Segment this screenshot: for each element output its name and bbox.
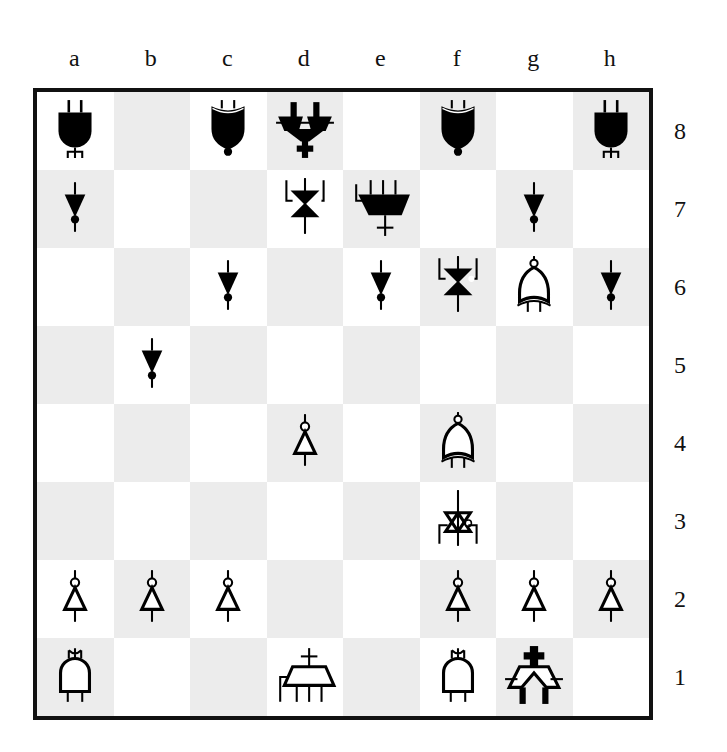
black-pawn-buffer-gate-icon[interactable] — [197, 254, 259, 320]
square-d3[interactable] — [267, 482, 344, 560]
square-g1[interactable] — [496, 638, 573, 716]
white-pawn-buffer-gate-icon[interactable] — [197, 566, 259, 632]
square-a2[interactable] — [37, 560, 114, 638]
square-f3[interactable] — [420, 482, 497, 560]
square-b2[interactable] — [114, 560, 191, 638]
square-e8[interactable] — [343, 92, 420, 170]
square-f5[interactable] — [420, 326, 497, 404]
square-f4[interactable] — [420, 404, 497, 482]
square-f8[interactable] — [420, 92, 497, 170]
black-rook-and-gate-icon[interactable] — [44, 98, 106, 164]
black-pawn-buffer-gate-icon[interactable] — [350, 254, 412, 320]
white-pawn-buffer-gate-icon[interactable] — [274, 410, 336, 476]
square-b4[interactable] — [114, 404, 191, 482]
white-pawn-buffer-gate-icon[interactable] — [427, 566, 489, 632]
square-e1[interactable] — [343, 638, 420, 716]
square-b3[interactable] — [114, 482, 191, 560]
square-a7[interactable] — [37, 170, 114, 248]
square-h3[interactable] — [573, 482, 650, 560]
square-e3[interactable] — [343, 482, 420, 560]
square-f7[interactable] — [420, 170, 497, 248]
square-d4[interactable] — [267, 404, 344, 482]
square-g6[interactable] — [496, 248, 573, 326]
square-d2[interactable] — [267, 560, 344, 638]
square-b6[interactable] — [114, 248, 191, 326]
white-pawn-buffer-gate-icon[interactable] — [580, 566, 642, 632]
white-rook-and-gate-icon[interactable] — [44, 644, 106, 710]
square-h6[interactable] — [573, 248, 650, 326]
square-h5[interactable] — [573, 326, 650, 404]
black-king-transmission-gate-icon[interactable] — [274, 176, 336, 242]
black-mux-gate-icon[interactable] — [350, 176, 412, 242]
square-b5[interactable] — [114, 326, 191, 404]
rank-label: 7 — [660, 170, 700, 248]
white-pawn-buffer-gate-icon[interactable] — [503, 566, 565, 632]
square-e2[interactable] — [343, 560, 420, 638]
square-h2[interactable] — [573, 560, 650, 638]
black-rook-and-gate-icon[interactable] — [580, 98, 642, 164]
file-label: d — [266, 38, 343, 78]
square-a3[interactable] — [37, 482, 114, 560]
file-label: a — [36, 38, 113, 78]
square-c1[interactable] — [190, 638, 267, 716]
square-c6[interactable] — [190, 248, 267, 326]
square-a4[interactable] — [37, 404, 114, 482]
square-f6[interactable] — [420, 248, 497, 326]
square-h1[interactable] — [573, 638, 650, 716]
black-pawn-buffer-gate-icon[interactable] — [503, 176, 565, 242]
white-bishop-or-gate-icon[interactable] — [503, 254, 565, 320]
square-c3[interactable] — [190, 482, 267, 560]
black-bishop-or-gate-icon[interactable] — [197, 98, 259, 164]
black-bishop-or-gate-icon[interactable] — [427, 98, 489, 164]
chess-board — [33, 88, 653, 720]
white-queen-gate-icon[interactable] — [503, 644, 565, 710]
square-g3[interactable] — [496, 482, 573, 560]
square-c8[interactable] — [190, 92, 267, 170]
square-g5[interactable] — [496, 326, 573, 404]
square-c7[interactable] — [190, 170, 267, 248]
white-king-transmission-gate-icon[interactable] — [427, 488, 489, 554]
square-g4[interactable] — [496, 404, 573, 482]
square-e5[interactable] — [343, 326, 420, 404]
white-mux-gate-icon[interactable] — [274, 644, 336, 710]
square-e7[interactable] — [343, 170, 420, 248]
black-queen-gate-icon[interactable] — [274, 98, 336, 164]
square-f2[interactable] — [420, 560, 497, 638]
square-a8[interactable] — [37, 92, 114, 170]
square-c2[interactable] — [190, 560, 267, 638]
square-h7[interactable] — [573, 170, 650, 248]
square-d8[interactable] — [267, 92, 344, 170]
white-bishop-or-gate-icon[interactable] — [427, 410, 489, 476]
square-d1[interactable] — [267, 638, 344, 716]
square-d6[interactable] — [267, 248, 344, 326]
white-pawn-buffer-gate-icon[interactable] — [44, 566, 106, 632]
square-d5[interactable] — [267, 326, 344, 404]
square-b7[interactable] — [114, 170, 191, 248]
square-e4[interactable] — [343, 404, 420, 482]
file-label: g — [495, 38, 572, 78]
square-c5[interactable] — [190, 326, 267, 404]
black-pawn-buffer-gate-icon[interactable] — [44, 176, 106, 242]
square-g7[interactable] — [496, 170, 573, 248]
black-pawn-buffer-gate-icon[interactable] — [121, 332, 183, 398]
white-rook-and-gate-icon[interactable] — [427, 644, 489, 710]
square-e6[interactable] — [343, 248, 420, 326]
square-c4[interactable] — [190, 404, 267, 482]
black-transmission-gate-icon[interactable] — [427, 254, 489, 320]
square-b8[interactable] — [114, 92, 191, 170]
square-h8[interactable] — [573, 92, 650, 170]
file-label: c — [189, 38, 266, 78]
rank-label: 4 — [660, 404, 700, 482]
square-a5[interactable] — [37, 326, 114, 404]
square-d7[interactable] — [267, 170, 344, 248]
square-a1[interactable] — [37, 638, 114, 716]
square-f1[interactable] — [420, 638, 497, 716]
square-h4[interactable] — [573, 404, 650, 482]
white-pawn-buffer-gate-icon[interactable] — [121, 566, 183, 632]
square-g2[interactable] — [496, 560, 573, 638]
rank-label: 2 — [660, 560, 700, 638]
black-pawn-buffer-gate-icon[interactable] — [580, 254, 642, 320]
square-b1[interactable] — [114, 638, 191, 716]
square-g8[interactable] — [496, 92, 573, 170]
square-a6[interactable] — [37, 248, 114, 326]
